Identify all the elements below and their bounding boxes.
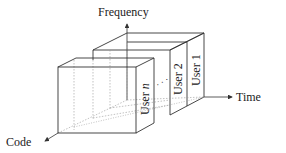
user-n-prefix: User — [138, 89, 152, 115]
user-2-label: User 2 — [171, 63, 185, 95]
code-axis — [45, 133, 58, 141]
time-label: Time — [236, 90, 261, 104]
ellipsis: · · · — [154, 74, 171, 89]
frequency-label: Frequency — [98, 5, 149, 19]
user-n-var: n — [138, 83, 152, 89]
tfc-cube-diagram: Frequency Time Code User 1 User 2 User n… — [0, 0, 286, 153]
user-n-label: User n — [138, 83, 152, 115]
code-label: Code — [6, 135, 31, 149]
user-1-label: User 1 — [189, 54, 203, 86]
